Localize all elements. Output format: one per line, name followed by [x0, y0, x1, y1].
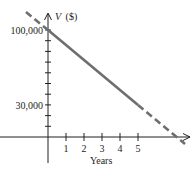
- y-axis-label-var: V: [55, 11, 63, 22]
- x-tick-label-3: 3: [100, 143, 105, 154]
- series-dashed-right: [138, 105, 185, 144]
- y-tick-label-30000: 30,000: [16, 100, 44, 111]
- x-tick-label-1: 1: [64, 143, 69, 154]
- y-axis-label-unit: ($): [66, 11, 78, 23]
- x-tick-label-4: 4: [118, 143, 123, 154]
- y-tick-label-100000: 100,000: [11, 25, 44, 36]
- x-axis-label: Years: [90, 155, 112, 166]
- chart: 100,000 30,000 1 2 3 4 5 Years V ($): [0, 0, 193, 173]
- series-solid: [48, 30, 138, 105]
- x-tick-label-2: 2: [82, 143, 87, 154]
- x-tick-label-5: 5: [136, 143, 141, 154]
- y-axis-label: V ($): [55, 11, 77, 23]
